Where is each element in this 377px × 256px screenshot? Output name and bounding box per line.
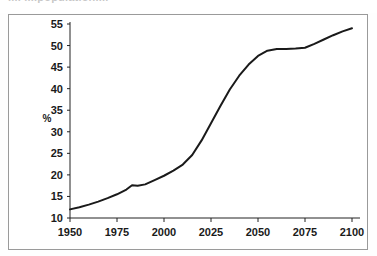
y-tick-label: 45 bbox=[51, 61, 63, 73]
y-tick-label: 20 bbox=[51, 169, 63, 181]
x-axis-tick-labels: 1950197520002025205020752100 bbox=[58, 226, 364, 238]
data-series-line bbox=[70, 28, 352, 209]
x-tick-label: 2100 bbox=[340, 226, 364, 238]
y-tick-label: 50 bbox=[51, 40, 63, 52]
y-tick-label: 55 bbox=[51, 18, 63, 30]
line-chart-plot: 10152025303540455055 1950197520002025205… bbox=[0, 0, 377, 256]
y-tick-label: 40 bbox=[51, 83, 63, 95]
y-tick-label: 10 bbox=[51, 212, 63, 224]
x-tick-label: 1975 bbox=[105, 226, 129, 238]
y-tick-label: 25 bbox=[51, 147, 63, 159]
y-tick-label: 15 bbox=[51, 190, 63, 202]
y-axis-tick-labels: 10152025303540455055 bbox=[51, 18, 63, 224]
x-tick-label: 2025 bbox=[199, 226, 223, 238]
x-axis-tick-marks bbox=[70, 218, 352, 222]
x-tick-label: 2050 bbox=[246, 226, 270, 238]
x-tick-label: 1950 bbox=[58, 226, 82, 238]
chart-figure: .... ....population.... 1015202530354045… bbox=[0, 0, 377, 256]
y-tick-label: 30 bbox=[51, 126, 63, 138]
x-tick-label: 2000 bbox=[152, 226, 176, 238]
y-tick-label: 35 bbox=[51, 104, 63, 116]
y-axis-label: % bbox=[43, 113, 52, 124]
x-tick-label: 2075 bbox=[293, 226, 317, 238]
